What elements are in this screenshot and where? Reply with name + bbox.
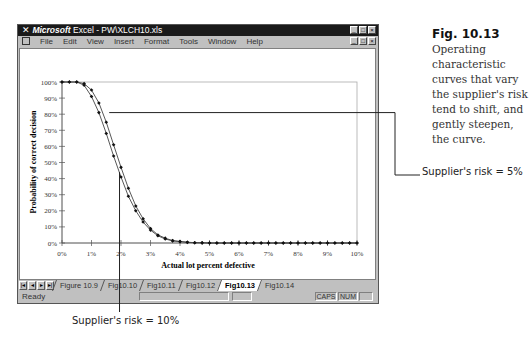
y-tick-label: 30%	[44, 191, 57, 199]
data-point	[97, 111, 101, 115]
series-line-risk-10	[62, 82, 357, 243]
data-point	[75, 80, 79, 84]
y-tick-label: 100%	[41, 79, 58, 87]
x-tick-label: 8%	[293, 250, 303, 258]
y-tick-label: 70%	[44, 127, 57, 135]
data-point	[289, 241, 293, 245]
x-axis-label: Actual lot percent defective	[161, 261, 255, 270]
data-point	[355, 241, 359, 245]
data-point	[252, 241, 256, 245]
data-point	[127, 186, 131, 190]
data-point	[245, 241, 249, 245]
data-point	[112, 143, 116, 147]
data-point	[104, 120, 108, 124]
data-point	[208, 241, 212, 245]
data-point	[222, 241, 226, 245]
caption-text: Operating characteristic curves that var…	[432, 43, 528, 145]
y-tick-label: 80%	[44, 111, 57, 119]
data-point	[68, 80, 72, 84]
data-point	[311, 241, 315, 245]
data-point	[193, 241, 197, 245]
plot-area-frame	[62, 82, 357, 243]
callout-risk-10: Supplier's risk = 10%	[72, 315, 179, 326]
data-point	[340, 241, 344, 245]
y-tick-label: 40%	[44, 175, 57, 183]
x-tick-label: 3%	[146, 250, 156, 258]
x-tick-label: 7%	[264, 250, 274, 258]
data-point	[267, 241, 271, 245]
x-tick-label: 5%	[205, 250, 215, 258]
data-point	[112, 154, 116, 158]
leader-line-risk-5	[109, 113, 420, 175]
data-point	[333, 241, 337, 245]
x-tick-label: 1%	[87, 250, 97, 258]
x-tick-label: 2%	[116, 250, 126, 258]
x-tick-label: 4%	[175, 250, 185, 258]
data-point	[200, 241, 204, 245]
y-tick-label: 10%	[44, 223, 57, 231]
data-point	[104, 132, 108, 136]
figure-number: Fig. 10.13	[432, 27, 530, 42]
data-point	[326, 241, 330, 245]
data-point	[318, 241, 322, 245]
data-point	[60, 80, 64, 84]
data-point	[281, 241, 285, 245]
data-point	[348, 241, 352, 245]
x-tick-label: 0%	[57, 250, 67, 258]
x-tick-label: 9%	[323, 250, 333, 258]
y-tick-label: 20%	[44, 207, 57, 215]
data-point	[97, 101, 101, 105]
y-axis-label: Probability of correct decision	[29, 110, 38, 214]
data-point	[259, 241, 263, 245]
data-point	[215, 241, 219, 245]
y-tick-label: 90%	[44, 95, 57, 103]
x-tick-label: 10%	[351, 250, 364, 258]
data-point	[296, 241, 300, 245]
callout-risk-5: Supplier's risk = 5%	[422, 166, 523, 177]
y-tick-label: 60%	[44, 143, 57, 151]
y-tick-label: 0%	[48, 240, 58, 248]
series-line-risk-5	[62, 82, 357, 243]
data-point	[119, 166, 123, 170]
figure-caption: Fig. 10.13 Operating characteristic curv…	[432, 27, 530, 147]
data-point	[230, 241, 234, 245]
data-point	[171, 239, 175, 243]
x-tick-label: 6%	[234, 250, 244, 258]
data-point	[127, 195, 131, 199]
data-point	[274, 241, 278, 245]
data-point	[237, 241, 241, 245]
y-tick-label: 50%	[44, 159, 57, 167]
data-point	[304, 241, 308, 245]
data-point	[186, 241, 190, 245]
